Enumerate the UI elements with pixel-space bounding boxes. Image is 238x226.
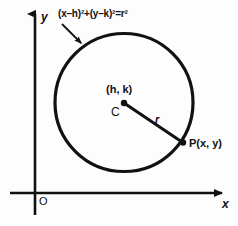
center-point-label: C bbox=[111, 106, 120, 118]
circle-diagram-figure: (x–h)²+(y–k)²=r² y x O (h, k) C r P(x, y… bbox=[0, 0, 238, 226]
origin-label: O bbox=[39, 196, 48, 207]
circle-equation-label: (x–h)²+(y–k)²=r² bbox=[58, 9, 128, 19]
y-axis-label: y bbox=[41, 11, 48, 23]
center-coordinates-label: (h, k) bbox=[106, 84, 132, 95]
equation-text: (x–h)²+(y–k)²=r² bbox=[58, 8, 128, 19]
center-point-dot bbox=[121, 100, 127, 106]
point-p-label: P(x, y) bbox=[189, 138, 222, 149]
radius-label: r bbox=[155, 114, 159, 125]
x-axis-label: x bbox=[222, 198, 229, 210]
point-p-dot bbox=[180, 139, 186, 145]
equation-leader-arrow bbox=[62, 24, 81, 43]
radius-segment bbox=[124, 103, 182, 142]
